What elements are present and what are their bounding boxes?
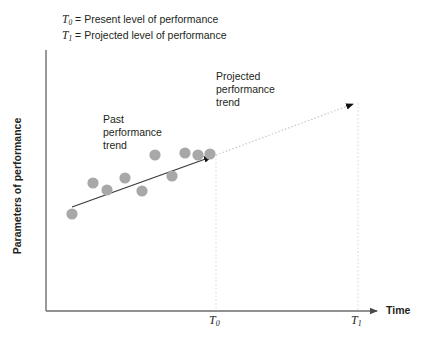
x-tick-label-t1: T1 [351,313,362,328]
x-tick-label-t1-subscript: 1 [358,319,362,328]
data-point [66,208,77,219]
data-point [204,148,215,159]
chart-plot-area [0,0,423,342]
data-point [136,185,147,196]
y-axis-title: Parameters of performance [11,106,23,266]
data-point [166,170,177,181]
legend-item-t1: T1 = Projected level of performance [62,28,227,44]
legend: T0 = Present level of performance T1 = P… [62,12,227,43]
data-point [101,184,112,195]
legend-symbol-t0: T0 [62,13,72,25]
data-point [192,149,203,160]
legend-symbol-t1: T1 [62,29,72,41]
data-point [87,177,98,188]
legend-text-t0: = Present level of performance [75,13,218,25]
scatter-points [66,147,215,219]
legend-symbol-t1-subscript: 1 [68,34,72,43]
guide-lines [216,103,358,311]
annotation-past-trend: Past performance trend [103,113,162,152]
data-point [119,172,130,183]
legend-item-t0: T0 = Present level of performance [62,12,227,28]
x-tick-label-t0-subscript: 0 [216,319,220,328]
x-axis-title: Time [386,304,410,316]
projected-trend-line [216,104,353,155]
annotation-projected-trend: Projected performance trend [216,70,275,109]
legend-text-t1: = Projected level of performance [75,29,226,41]
data-point [179,147,190,158]
legend-symbol-t0-subscript: 0 [68,18,72,27]
chart-canvas: T0 = Present level of performance T1 = P… [0,0,423,342]
x-tick-label-t0: T0 [209,313,220,328]
